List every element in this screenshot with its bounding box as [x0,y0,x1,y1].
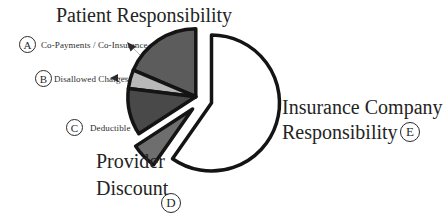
pie-chart-figure: Patient Responsibility A Co-Payments / C… [0,0,447,220]
circle-letter-c: C [66,119,83,136]
insurance-responsibility-label: Insurance Company Responsibility [282,95,443,145]
circle-letter-b: B [35,70,52,87]
callout-copayments-label: Co-Payments / Co-Insurance [41,40,148,50]
callout-disallowed-charges-label: Disallowed Charges [54,74,128,84]
provider-discount-label: Provider Discount [96,148,168,202]
callout-deductible: C Deductible [66,119,131,136]
callout-deductible-label: Deductible [90,123,131,133]
patient-responsibility-title: Patient Responsibility [56,3,232,27]
insurance-line1: Insurance Company [282,95,443,120]
provider-discount-line1: Provider [96,148,168,175]
pie-slice-C [128,88,196,133]
callout-copayments: A Co-Payments / Co-Insurance [19,36,148,53]
callout-disallowed-charges: B Disallowed Charges [35,70,128,87]
circle-letter-d: D [161,193,181,213]
circle-letter-e: E [400,122,420,142]
circle-letter-a: A [19,36,36,53]
provider-discount-line2: Discount [96,175,168,202]
